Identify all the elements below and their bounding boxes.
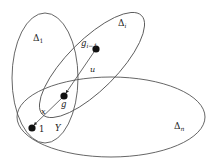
label-g: g (61, 99, 67, 109)
node-one (28, 124, 35, 131)
label-x: x (41, 107, 46, 116)
edge-x (34, 96, 64, 125)
label-one: 1 (39, 124, 44, 134)
label-u: u (90, 65, 95, 74)
set-delta-n (17, 77, 205, 157)
label-upsilon: Υ (55, 123, 62, 133)
diagram-canvas: Δ1 Δi Δn gi−1 g 1 u x Υ (0, 0, 215, 163)
set-delta-1 (12, 13, 78, 143)
label-g-i-minus-1: gi−1 (81, 38, 97, 49)
label-delta-n: Δn (174, 121, 185, 132)
label-delta-1: Δ1 (33, 33, 43, 44)
label-delta-i: Δi (118, 18, 127, 29)
